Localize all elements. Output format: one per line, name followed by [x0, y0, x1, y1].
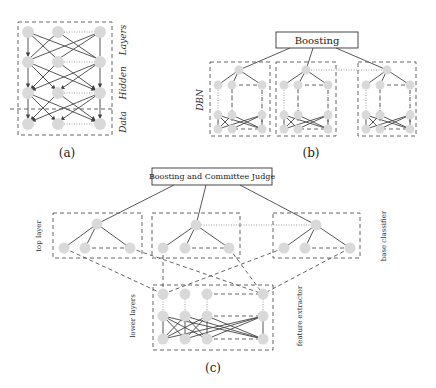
panel-b: Boosting DBN: [195, 32, 416, 160]
label-dbn: DBN: [195, 88, 205, 112]
dbn-2: [276, 62, 336, 136]
label-lower-layers: lower layers: [129, 294, 137, 338]
label-top-layer: top layer: [35, 220, 43, 252]
label-base-classifier: base classifier: [380, 210, 388, 261]
label-hidden-layers: Hidden Layers: [118, 24, 128, 100]
caption-b: (b): [302, 146, 319, 160]
caption-c: (c): [205, 361, 221, 375]
nodes: [22, 26, 106, 130]
figure-canvas: Hidden Layers Data (a) Boosting DBN: [0, 0, 436, 388]
panel-a-frame: [18, 22, 112, 135]
feature-links: [64, 248, 350, 294]
edges: [28, 32, 100, 121]
boosting-label: Boosting: [295, 35, 340, 46]
panel-c: Boosting and Committee Judge: [35, 168, 388, 375]
caption-a: (a): [59, 146, 76, 160]
committee-judge-label: Boosting and Committee Judge: [149, 172, 276, 181]
label-data: Data: [118, 111, 128, 134]
label-feature-extractor: feature extractor: [296, 285, 304, 346]
panel-a: Hidden Layers Data (a): [10, 22, 128, 160]
lower-layers-block: [153, 285, 273, 350]
dbn-3: [358, 62, 416, 136]
dbn-1: [210, 62, 270, 136]
